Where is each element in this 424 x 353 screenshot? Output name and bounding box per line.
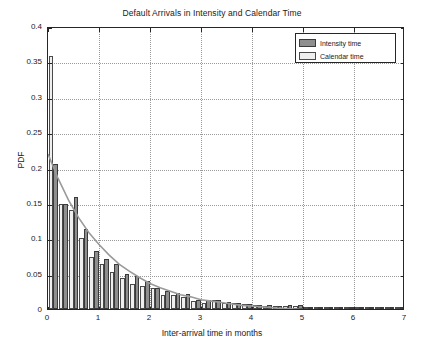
y-tick-label: 0.05 — [8, 270, 42, 279]
tick-mark-y — [48, 28, 52, 29]
tick-mark-x — [48, 307, 49, 310]
legend-label-calendar: Calendar time — [320, 53, 364, 60]
y-tick-label: 0.15 — [8, 199, 42, 208]
tick-mark-y — [48, 240, 52, 241]
tick-mark-y — [401, 134, 404, 135]
tick-mark-y — [401, 99, 404, 100]
tick-mark-y — [401, 28, 404, 29]
tick-mark-x — [303, 307, 304, 310]
y-tick-label: 0.35 — [8, 57, 42, 66]
tick-mark-y — [401, 170, 404, 171]
tick-mark-y — [401, 276, 404, 277]
x-tick-label: 1 — [86, 313, 110, 322]
tick-mark-x — [99, 307, 100, 310]
x-tick-label: 5 — [290, 313, 314, 322]
chart-figure: Default Arrivals in Intensity and Calend… — [0, 0, 424, 353]
tick-mark-x — [99, 28, 100, 32]
tick-mark-x — [150, 307, 151, 310]
legend-entry-calendar: Calendar time — [299, 50, 364, 62]
tick-mark-x — [303, 28, 304, 32]
y-axis-label: PDF — [16, 130, 26, 190]
x-tick-label: 2 — [137, 313, 161, 322]
y-tick-label: 0.3 — [8, 93, 42, 102]
tick-mark-y — [48, 63, 52, 64]
x-tick-label: 6 — [341, 313, 365, 322]
tick-mark-x — [150, 28, 151, 32]
legend-swatch-calendar — [299, 52, 316, 60]
x-tick-label: 7 — [392, 313, 416, 322]
y-tick-label: 0 — [8, 305, 42, 314]
tick-mark-x — [252, 307, 253, 310]
tick-mark-x — [252, 28, 253, 32]
tick-mark-y — [48, 134, 52, 135]
tick-mark-x — [354, 307, 355, 310]
tick-mark-y — [401, 240, 404, 241]
tick-mark-x — [354, 28, 355, 32]
tick-mark-x — [201, 28, 202, 32]
legend-label-intensity: Intensity time — [320, 40, 361, 47]
x-tick-label: 3 — [188, 313, 212, 322]
y-tick-label: 0.1 — [8, 234, 42, 243]
x-tick-label: 0 — [35, 313, 59, 322]
legend-swatch-intensity — [299, 39, 316, 47]
fit-curve — [48, 28, 404, 310]
x-tick-label: 4 — [239, 313, 263, 322]
tick-mark-y — [48, 276, 52, 277]
tick-mark-x — [201, 307, 202, 310]
tick-mark-y — [48, 99, 52, 100]
chart-legend: Intensity time Calendar time — [295, 33, 396, 63]
legend-entry-intensity: Intensity time — [299, 37, 361, 49]
tick-mark-y — [48, 205, 52, 206]
tick-mark-y — [401, 63, 404, 64]
x-axis-label: Inter-arrival time in months — [0, 328, 424, 338]
plot-area — [47, 27, 404, 310]
y-tick-label: 0.4 — [8, 22, 42, 31]
tick-mark-y — [401, 205, 404, 206]
chart-title: Default Arrivals in Intensity and Calend… — [0, 8, 424, 18]
tick-mark-y — [48, 170, 52, 171]
